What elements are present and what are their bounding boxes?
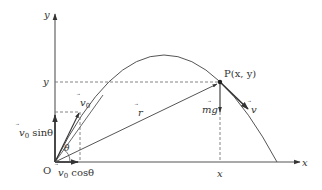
v0-cos-arrow-accent: ⃗: [54, 163, 58, 166]
v0-sin-label: v0 sinθ: [19, 127, 53, 140]
y-axis-label: y: [43, 9, 50, 20]
velocity-vector: [220, 82, 248, 109]
v0-sin-arrow-accent: ⃗: [15, 123, 19, 126]
r-arrow-accent: ⃗: [134, 103, 138, 106]
projectile-motion-diagram: y x y x O P(x, y) v0 v0 sinθ v0 cosθ θ r…: [0, 0, 322, 190]
v0-cos-label: v0 cosθ: [58, 167, 94, 180]
velocity-label: v: [251, 104, 257, 115]
point-p-label: P(x, y): [224, 68, 256, 79]
v0-label: v0: [80, 97, 90, 110]
g-arrow-accent: ⃗: [207, 100, 211, 103]
point-p: [218, 80, 222, 84]
r-label: r: [138, 107, 144, 118]
v-arrow-accent: ⃗: [247, 100, 251, 103]
x-level-label: x: [217, 168, 223, 179]
y-level-label: y: [42, 76, 49, 87]
v0-vector: [55, 113, 79, 162]
x-axis-label: x: [302, 157, 308, 168]
origin-label: O: [43, 165, 51, 176]
v0-arrow-accent: ⃗: [76, 93, 80, 96]
mg-label: mg: [202, 104, 218, 115]
r-vector: [55, 84, 217, 162]
theta-label: θ: [64, 143, 70, 153]
launch-direction-line: [55, 95, 103, 162]
